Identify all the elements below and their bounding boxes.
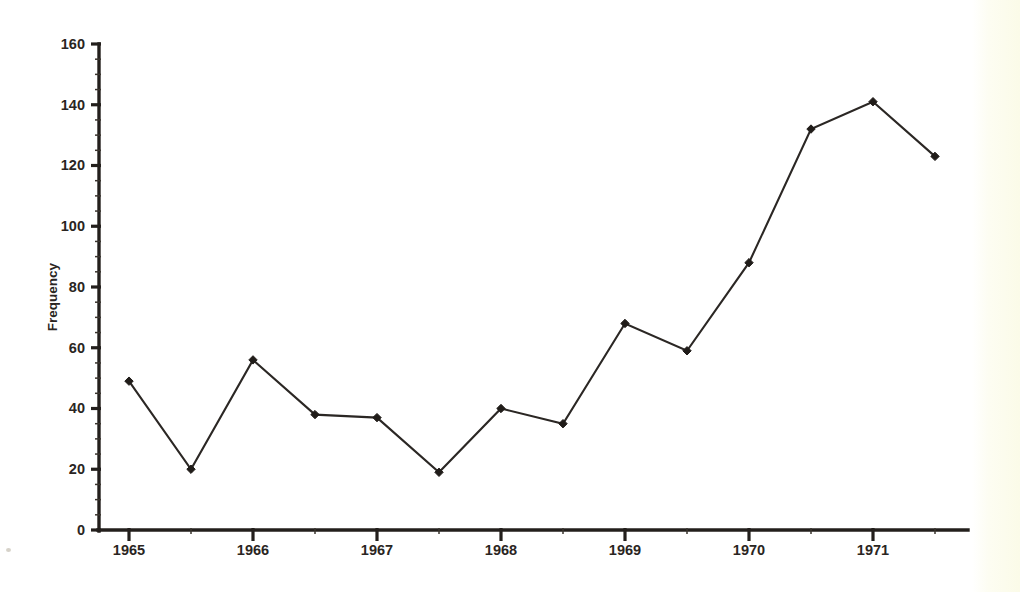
y-tick-label: 80: [69, 279, 85, 295]
x-tick-label: 1967: [361, 542, 393, 558]
y-tick-label: 0: [77, 522, 85, 538]
series-line-frequency: [129, 102, 935, 473]
x-tick-label: 1971: [857, 542, 889, 558]
y-axis-title-label: Frequency: [45, 262, 60, 331]
series-frequency: [125, 98, 939, 477]
scan-speck-artifact: [6, 548, 11, 552]
y-axis-ticks: 020406080100120140160: [61, 36, 101, 538]
x-axis-ticks: 1965196619671968196919701971: [113, 528, 935, 558]
x-tick-label: 1968: [485, 542, 517, 558]
y-tick-label: 160: [61, 36, 85, 52]
y-tick-label: 60: [69, 340, 85, 356]
series-markers-frequency: [125, 98, 939, 477]
line-chart: Frequency 020406080100120140160 19651966…: [0, 0, 1020, 592]
y-axis-title: Frequency: [45, 262, 60, 331]
y-tick-label: 20: [69, 461, 85, 477]
y-tick-label: 100: [61, 218, 85, 234]
x-tick-label: 1965: [113, 542, 145, 558]
figure-canvas: Frequency 020406080100120140160 19651966…: [0, 0, 1020, 592]
x-tick-label: 1966: [237, 542, 269, 558]
x-tick-label: 1970: [733, 542, 765, 558]
y-tick-label: 40: [69, 400, 85, 416]
data-point-marker: [807, 125, 815, 133]
y-tick-label: 140: [61, 97, 85, 113]
y-tick-label: 120: [61, 157, 85, 173]
x-tick-label: 1969: [609, 542, 641, 558]
